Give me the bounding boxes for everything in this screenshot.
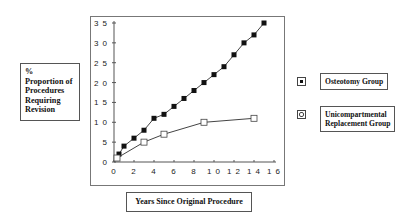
open-square-marker: [251, 115, 257, 121]
y-tick-label: 1 0: [94, 118, 108, 127]
filled-square-marker: [232, 52, 237, 57]
x-tick-label: 8: [191, 167, 196, 176]
y-tick-label: 2 5: [94, 59, 108, 68]
filled-square-marker: [162, 112, 167, 117]
x-axis-label: Years Since Original Procedure: [126, 192, 252, 212]
legend-label: Osteotomy Group: [325, 77, 383, 86]
filled-square-marker: [122, 144, 127, 149]
x-tick-label: 1 4: [247, 167, 261, 176]
filled-square-marker: [192, 88, 197, 93]
open-square-marker: [114, 155, 120, 161]
y-tick-label: 3 0: [94, 39, 108, 48]
open-square-marker: [201, 119, 207, 125]
x-tick-label: 2: [131, 167, 136, 176]
open-square-marker: [161, 131, 167, 137]
x-tick-label: 4: [151, 167, 156, 176]
legend-label: Unicompartmental: [325, 110, 390, 119]
filled-square-marker: [252, 32, 257, 37]
legend-item-unicompartmental: Unicompartmental Replacement Group: [320, 106, 395, 132]
series-line-1: [117, 118, 254, 158]
filled-square-marker: [172, 104, 177, 109]
y-tick-label: 5: [103, 138, 108, 147]
filled-square-marker: [182, 96, 187, 101]
y-tick-label: 2 0: [94, 79, 108, 88]
x-tick-label: 6: [171, 167, 176, 176]
filled-square-marker: [222, 64, 227, 69]
x-tick-label: 1 0: [207, 167, 221, 176]
filled-square-marker: [152, 116, 157, 121]
filled-square-marker: [262, 21, 267, 26]
legend-item-osteotomy: Osteotomy Group: [320, 73, 388, 90]
y-tick-label: 0: [103, 158, 108, 167]
filled-square-marker: [212, 72, 217, 77]
legend-marker-osteotomy: [297, 77, 306, 86]
x-tick-label: 1 2: [227, 167, 241, 176]
y-tick-label: 3 5: [94, 19, 108, 28]
filled-square-marker: [142, 128, 147, 133]
x-tick-label: 0: [111, 167, 116, 176]
legend-marker-unicompartmental: [297, 110, 306, 119]
y-tick-label: 1 5: [94, 98, 108, 107]
filled-square-marker: [132, 136, 137, 141]
open-square-icon: [299, 112, 304, 117]
filled-square-marker: [242, 40, 247, 45]
filled-square-marker: [202, 80, 207, 85]
legend-label: Replacement Group: [325, 119, 390, 128]
open-square-marker: [141, 139, 147, 145]
x-tick-label: 1 6: [267, 167, 281, 176]
filled-square-icon: [300, 80, 303, 83]
